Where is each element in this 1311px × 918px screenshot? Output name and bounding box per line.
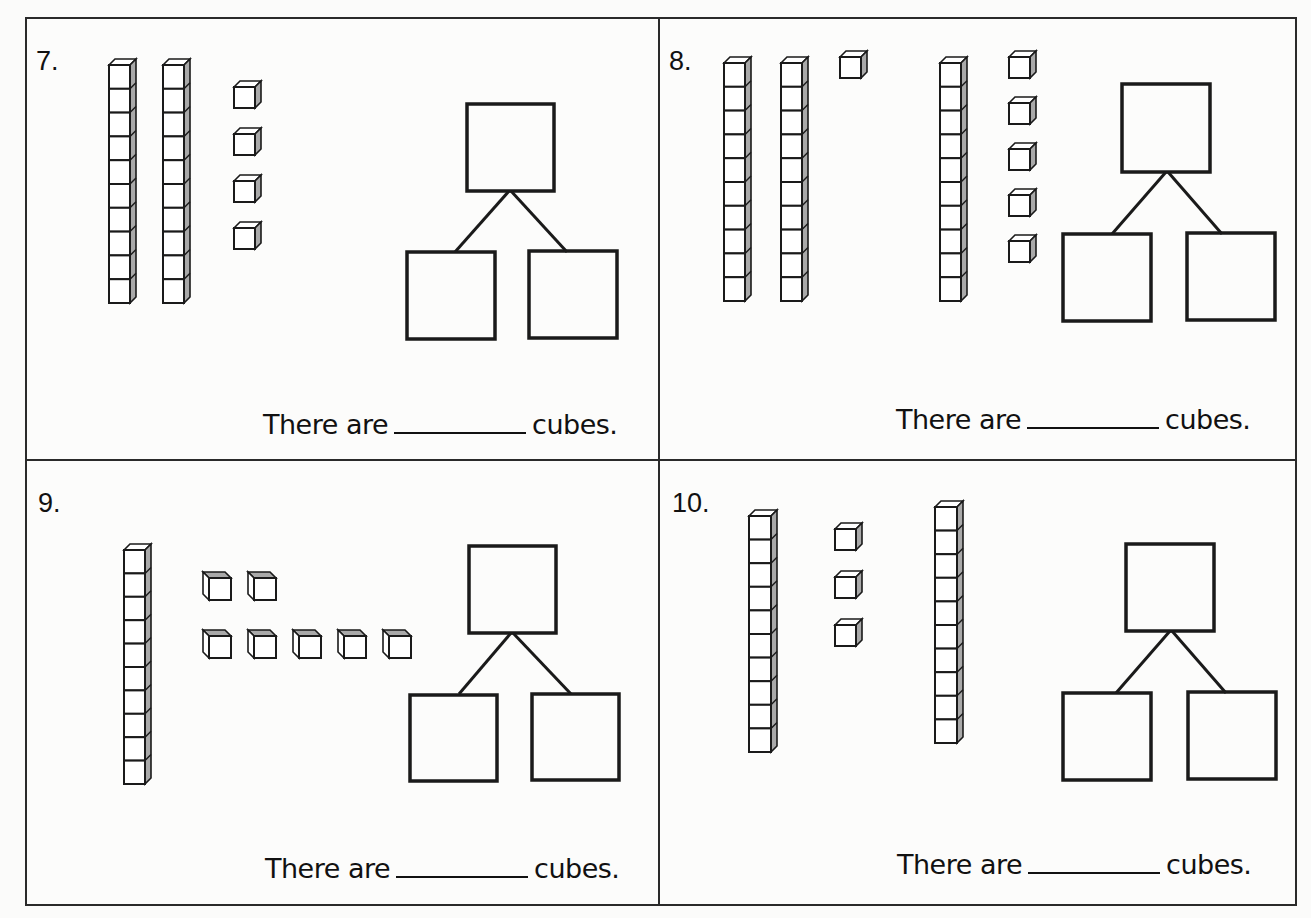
answer-sentence: There arecubes.: [896, 404, 1250, 435]
sentence-suffix: cubes.: [532, 409, 617, 440]
bond-whole-box[interactable]: [1126, 544, 1214, 631]
answer-blank[interactable]: [394, 412, 526, 434]
bond-part-left-box[interactable]: [407, 252, 495, 339]
sentence-suffix: cubes.: [1166, 849, 1251, 880]
bond-part-right-box[interactable]: [529, 251, 617, 338]
bond-whole-box[interactable]: [467, 104, 554, 191]
sentence-prefix: There are: [896, 404, 1021, 435]
bond-connector-right: [513, 633, 571, 694]
worksheet: 7. There arecubes. 8. There arecubes. 9.: [25, 17, 1297, 906]
answer-sentence: There arecubes.: [263, 409, 617, 440]
bond-part-left-box[interactable]: [1063, 234, 1151, 321]
bond-connector-left: [459, 633, 511, 694]
bond-part-right-box[interactable]: [1187, 233, 1275, 320]
problem-9: 9. There arecubes.: [27, 461, 658, 906]
answer-blank[interactable]: [396, 856, 528, 878]
number-bond: [660, 19, 1297, 459]
answer-blank[interactable]: [1028, 852, 1160, 874]
answer-sentence: There arecubes.: [897, 849, 1251, 880]
bond-connector-left: [1116, 631, 1170, 693]
problem-7: 7. There arecubes.: [27, 19, 658, 459]
number-bond: [27, 19, 658, 459]
sentence-prefix: There are: [263, 409, 388, 440]
answer-sentence: There arecubes.: [265, 853, 619, 884]
problem-8: 8. There arecubes.: [660, 19, 1297, 459]
number-bond: [27, 461, 658, 906]
problem-10: 10. There arecubes.: [660, 461, 1297, 906]
sentence-prefix: There are: [265, 853, 390, 884]
bond-connector-left: [1112, 172, 1166, 234]
bond-connector-right: [511, 191, 567, 252]
answer-blank[interactable]: [1027, 407, 1159, 429]
bond-whole-box[interactable]: [469, 546, 556, 633]
bond-whole-box[interactable]: [1122, 84, 1210, 172]
bond-part-left-box[interactable]: [410, 695, 497, 781]
bond-connector-left: [455, 191, 509, 252]
bond-part-right-box[interactable]: [1188, 692, 1276, 779]
sentence-prefix: There are: [897, 849, 1022, 880]
bond-part-left-box[interactable]: [1063, 693, 1151, 780]
bond-connector-right: [1168, 172, 1222, 234]
sentence-suffix: cubes.: [1165, 404, 1250, 435]
bond-part-right-box[interactable]: [532, 694, 619, 780]
bond-connector-right: [1172, 631, 1226, 693]
number-bond: [660, 461, 1297, 906]
sentence-suffix: cubes.: [534, 853, 619, 884]
